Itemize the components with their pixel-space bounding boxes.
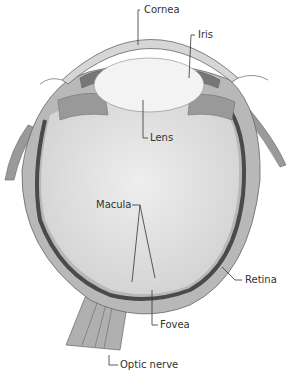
label-optic-nerve: Optic nerve bbox=[120, 359, 178, 371]
label-macula: Macula bbox=[96, 199, 132, 211]
label-fovea: Fovea bbox=[160, 319, 190, 331]
lens bbox=[94, 58, 204, 112]
label-cornea: Cornea bbox=[144, 4, 180, 16]
label-retina: Retina bbox=[245, 274, 277, 286]
label-lens: Lens bbox=[150, 132, 173, 144]
label-iris: Iris bbox=[198, 29, 213, 41]
eye-diagram bbox=[0, 0, 298, 387]
